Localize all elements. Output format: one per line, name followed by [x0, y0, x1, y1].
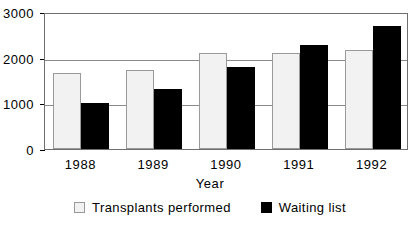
bar	[53, 73, 81, 149]
plot-area	[44, 13, 408, 150]
x-tick-label: 1988	[50, 158, 110, 171]
chart-legend: Transplants performed Waiting list	[0, 201, 420, 214]
y-tick-mark	[40, 150, 45, 151]
light-square-icon	[74, 202, 85, 213]
bar	[227, 67, 255, 149]
y-tick-label: 1000	[0, 98, 34, 111]
chart-figure: 0100020003000 19881989199019911992 Year …	[0, 0, 420, 227]
bar	[300, 45, 328, 149]
x-tick-label: 1990	[196, 158, 256, 171]
legend-item-transplants-performed: Transplants performed	[74, 201, 231, 214]
bar	[373, 26, 401, 149]
x-axis-title: Year	[0, 177, 420, 190]
dark-square-icon	[261, 202, 272, 213]
legend-label: Transplants performed	[92, 201, 231, 214]
x-tick-label: 1991	[269, 158, 329, 171]
legend-label: Waiting list	[279, 201, 346, 214]
x-tick-label: 1989	[123, 158, 183, 171]
y-tick-label: 2000	[0, 53, 34, 66]
bar	[154, 89, 182, 149]
y-tick-label: 3000	[0, 7, 34, 20]
y-tick-label: 0	[0, 144, 34, 157]
bar	[81, 103, 109, 149]
bar	[272, 53, 300, 149]
x-tick-label: 1992	[342, 158, 402, 171]
legend-item-waiting-list: Waiting list	[261, 201, 346, 214]
bar	[126, 70, 154, 149]
bar	[345, 50, 373, 149]
bar	[199, 53, 227, 149]
